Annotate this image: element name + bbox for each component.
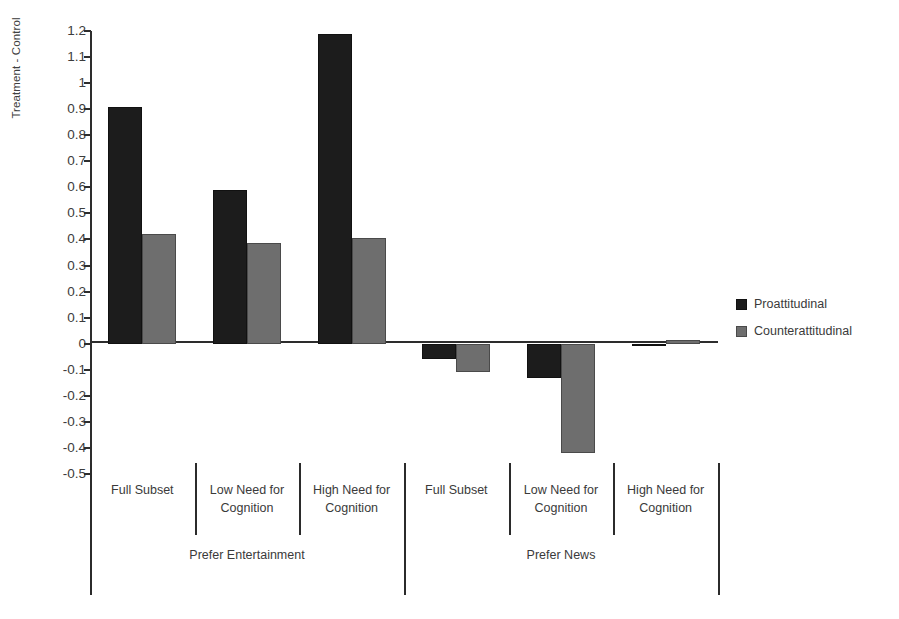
bar-chart: Treatment - Control 1.21.110.90.80.70.60… [0, 0, 899, 619]
y-axis-tick-label: 0.5 [44, 207, 86, 221]
y-axis-tick-label: -0.1 [44, 363, 86, 377]
bar-proattitudinal [422, 344, 456, 360]
chart-legend: ProattitudinalCounterattitudinal [736, 297, 896, 351]
bar-proattitudinal [632, 344, 666, 347]
category-label: Full Subset [410, 481, 503, 499]
group-label: Prefer Entertainment [90, 548, 404, 562]
category-label: High Need for Cognition [305, 481, 398, 517]
y-axis-tick-label: 0.6 [44, 181, 86, 195]
y-axis-tick-label: 0.7 [44, 155, 86, 169]
plot-area [90, 31, 718, 474]
y-axis-tick-label: 1.2 [44, 24, 86, 38]
y-axis-tick-label: 0.3 [44, 259, 86, 273]
y-axis-tick-label: 0.4 [44, 233, 86, 247]
y-axis-tick-label: 0.9 [44, 102, 86, 116]
bar-proattitudinal [108, 107, 142, 344]
category-separator [90, 463, 92, 535]
y-axis-tick-label: -0.5 [44, 467, 86, 481]
bar-counterattitudinal [561, 344, 595, 453]
y-axis-tick-label: -0.3 [44, 415, 86, 429]
category-label: Full Subset [96, 481, 189, 499]
category-separator [195, 463, 197, 535]
y-axis-tick-label: 0.2 [44, 285, 86, 299]
legend-swatch-icon [736, 299, 747, 310]
y-axis-tick-label: 0.1 [44, 311, 86, 325]
bar-counterattitudinal [456, 344, 490, 373]
category-separator [299, 463, 301, 535]
y-axis-tick-label: -0.2 [44, 389, 86, 403]
y-axis-tick-label: -0.4 [44, 441, 86, 455]
category-label: Low Need for Cognition [515, 481, 608, 517]
legend-item: Counterattitudinal [736, 324, 896, 338]
group-separator [404, 535, 406, 595]
legend-item: Proattitudinal [736, 297, 896, 311]
group-separator [90, 535, 92, 595]
y-axis-title: Treatment - Control [10, 0, 32, 178]
bar-counterattitudinal [142, 234, 176, 343]
category-separator [404, 463, 406, 535]
category-separator [718, 463, 720, 535]
bar-proattitudinal [318, 34, 352, 344]
category-label: Low Need for Cognition [201, 481, 294, 517]
y-axis-tick-label: 1 [44, 76, 86, 90]
group-label: Prefer News [404, 548, 718, 562]
bar-counterattitudinal [247, 243, 281, 343]
legend-swatch-icon [736, 326, 747, 337]
y-axis-tick-label: 1.1 [44, 50, 86, 64]
bar-proattitudinal [213, 190, 247, 344]
category-separator [613, 463, 615, 535]
y-axis-tick-label: 0.8 [44, 128, 86, 142]
legend-label: Counterattitudinal [754, 324, 852, 338]
category-separator [509, 463, 511, 535]
bar-counterattitudinal [352, 238, 386, 344]
y-axis-tick-labels: 1.21.110.90.80.70.60.50.40.30.20.10-0.1-… [44, 25, 86, 480]
y-axis-tick-label: 0 [44, 337, 86, 351]
group-separator [718, 535, 720, 595]
bar-proattitudinal [527, 344, 561, 378]
category-label: High Need for Cognition [619, 481, 712, 517]
legend-label: Proattitudinal [754, 297, 827, 311]
bar-counterattitudinal [666, 340, 700, 344]
